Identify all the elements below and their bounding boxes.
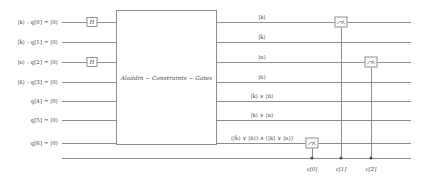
qubit-output-label-0: |k⟩ — [258, 14, 266, 20]
qubit-wire-left-4 — [62, 101, 116, 102]
qubit-output-label-6: (|k̄⟩ ∨ |n̄⟩) ∧ (|k⟩ ∨ |n⟩) — [231, 135, 293, 141]
qubit-wire-right-5 — [217, 120, 411, 121]
qubit-wire-left-6 — [62, 143, 116, 144]
classical-bit-label-c2: c[2] — [366, 166, 377, 172]
classical-bit-label-c1: c[1] — [336, 166, 347, 172]
classical-bit-dot-c1 — [339, 156, 342, 159]
qubit-wire-left-1 — [62, 42, 116, 43]
classical-bit-dot-c0 — [310, 156, 313, 159]
qubit-wire-left-5 — [62, 120, 116, 121]
measurement-gate-q2[interactable] — [365, 57, 378, 68]
qubit-input-label-3: |n̄⟩ : q[3] = |0⟩ — [17, 79, 58, 85]
hadamard-gate-label: H — [90, 59, 95, 65]
measure-meter-icon — [366, 58, 377, 67]
qubit-output-label-5: |k⟩ ∨ |n⟩ — [251, 112, 274, 118]
hadamard-gate-q2[interactable]: H — [87, 57, 98, 67]
measure-to-cbit-line-c2 — [371, 62, 372, 158]
qubit-input-label-2: |n⟩ : q[2] = |0⟩ — [17, 59, 58, 65]
hadamard-gate-label: H — [90, 19, 95, 25]
qubit-input-label-4: q[4] = |0⟩ — [31, 98, 58, 104]
measure-meter-icon — [307, 139, 318, 148]
measure-meter-icon — [336, 18, 347, 27]
classical-bit-label-c0: c[0] — [307, 166, 318, 172]
qubit-input-label-6: q[6] = |0⟩ — [31, 140, 58, 146]
qubit-wire-right-3 — [217, 82, 411, 83]
qubit-output-label-3: |n̄⟩ — [258, 74, 266, 80]
qubit-wire-right-2 — [217, 62, 411, 63]
measurement-gate-q0[interactable] — [335, 17, 348, 28]
qubit-wire-left-3 — [62, 82, 116, 83]
qubit-wire-right-0 — [217, 22, 411, 23]
classical-register-bus — [62, 158, 411, 159]
qubit-output-label-4: |k̄⟩ ∨ |n̄⟩ — [251, 93, 274, 99]
qubit-input-label-1: |k̄⟩ : q[1] = |0⟩ — [18, 39, 58, 45]
quantum-circuit-diagram: |k⟩ : q[0] = |0⟩ |k̄⟩ : q[1] = |0⟩ |n⟩ :… — [0, 0, 422, 186]
qubit-output-label-1: |k̄⟩ — [258, 34, 266, 40]
qubit-output-label-2: |n⟩ — [258, 54, 266, 60]
classical-bit-dot-c2 — [369, 156, 372, 159]
qubit-wire-right-1 — [217, 42, 411, 43]
hadamard-gate-q0[interactable]: H — [87, 17, 98, 27]
qubit-input-label-0: |k⟩ : q[0] = |0⟩ — [18, 19, 58, 25]
aladdin-constraints-gates-box[interactable]: Aladdin − Constraints − Gates — [116, 10, 217, 145]
measurement-gate-q6[interactable] — [306, 138, 319, 149]
qubit-input-label-5: q[5] = |0⟩ — [31, 117, 58, 123]
aladdin-constraints-gates-label: Aladdin − Constraints − Gates — [121, 75, 213, 81]
measure-to-cbit-line-c1 — [341, 22, 342, 158]
qubit-wire-right-4 — [217, 101, 411, 102]
